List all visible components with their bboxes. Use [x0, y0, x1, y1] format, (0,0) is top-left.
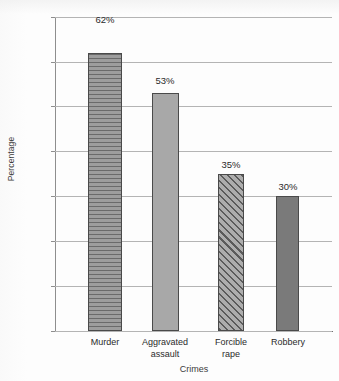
bar-forcible-rape[interactable] [218, 174, 244, 331]
x-tick-label-forcible-rape-line1: Forcible [215, 337, 247, 349]
tick-20 [51, 241, 55, 242]
x-tick-label-robbery: Robbery [271, 337, 305, 349]
y-axis-title: Percentage [6, 119, 16, 199]
x-tick-label-robbery-line1: Robbery [271, 337, 305, 349]
x-tick-label-forcible-rape-line2: rape [215, 349, 247, 361]
x-tick-label-aggravated-assault: Aggravated assault [142, 337, 188, 360]
tick-70 [51, 17, 55, 18]
bar-murder[interactable] [88, 53, 122, 331]
chart-title [10, 0, 330, 5]
bar-value-murder: 62% [95, 14, 114, 25]
gridline-0 [55, 331, 332, 332]
x-tick-label-forcible-rape: Forcible rape [215, 337, 247, 360]
x-tick-label-murder: Murder [91, 337, 120, 349]
bar-value-robbery: 30% [278, 181, 297, 192]
tick-60 [51, 62, 55, 63]
tick-0 [51, 331, 55, 332]
plot-area: 0% 10% 20% 30% 40% 50% 60% 70% 62% 53% 3… [55, 17, 332, 331]
tick-30 [51, 196, 55, 197]
y-axis-line [55, 17, 56, 332]
tick-50 [51, 106, 55, 107]
bar-value-aggravated-assault: 53% [155, 75, 174, 86]
tick-10 [51, 286, 55, 287]
bar-value-forcible-rape: 35% [221, 159, 240, 170]
bar-aggravated-assault[interactable] [152, 93, 179, 331]
x-axis-title: Crimes [55, 364, 333, 374]
x-tick-label-aggravated-assault-line2: assault [142, 349, 188, 361]
x-tick-label-aggravated-assault-line1: Aggravated [142, 337, 188, 349]
bar-chart-figure: Percentage Crimes 0% 10% 20% 30% 40% 50%… [0, 0, 339, 381]
bar-robbery[interactable] [276, 196, 299, 331]
x-tick-label-murder-line1: Murder [91, 337, 120, 349]
tick-40 [51, 151, 55, 152]
